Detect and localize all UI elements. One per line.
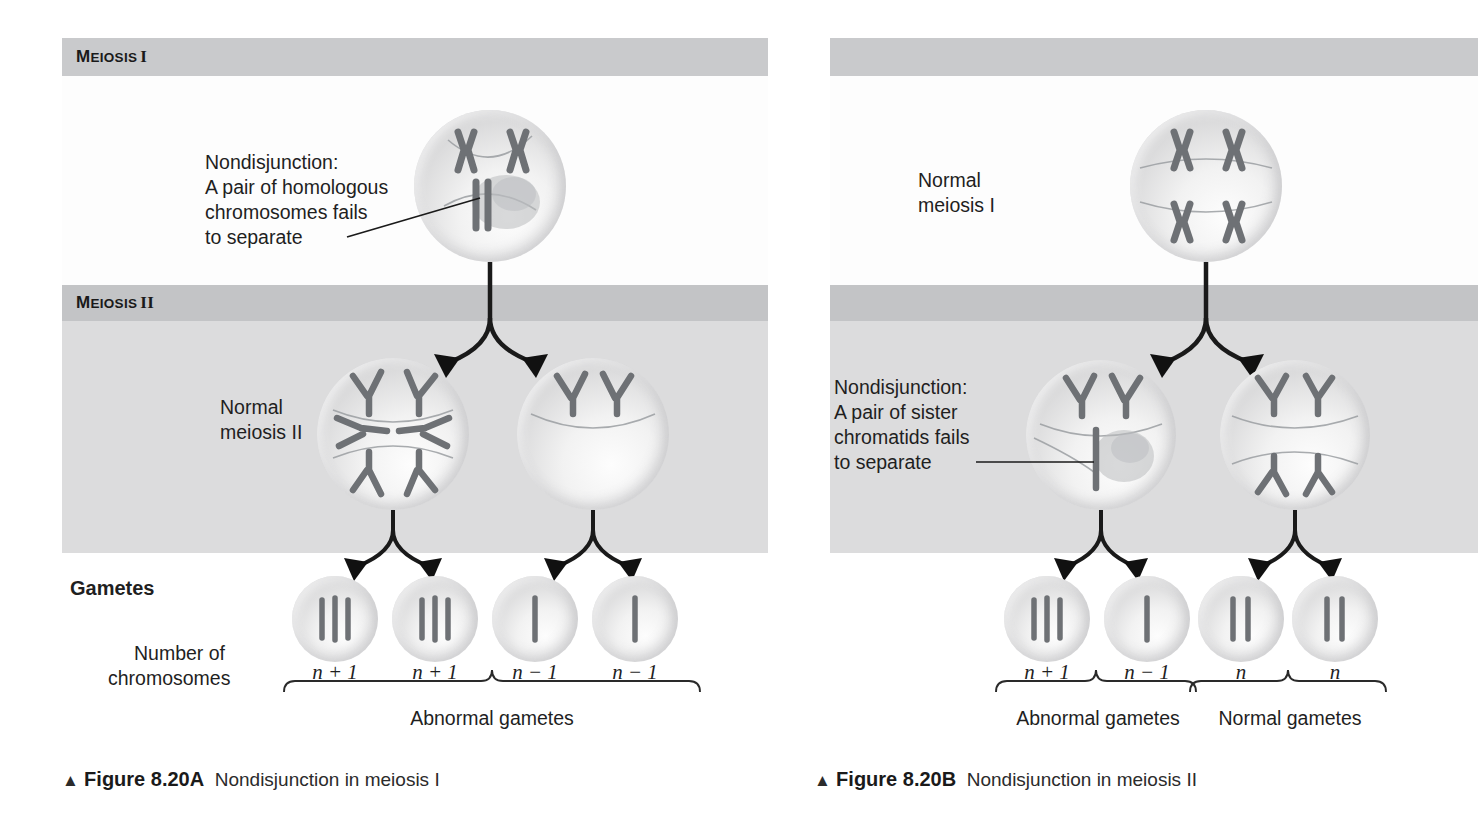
caption-number-left: Figure 8.20A — [84, 768, 204, 790]
figure-caption-right: ▲ Figure 8.20B Nondisjunction in meiosis… — [814, 768, 1197, 791]
gamete-cell-right-3 — [1198, 576, 1284, 662]
cell-meiosis-1-nondisjunction — [414, 110, 566, 262]
cell-meiosis-2-left-nm1 — [517, 358, 669, 510]
caption-triangle-right: ▲ — [814, 771, 831, 790]
annotation-right-line-2: A pair of sister — [834, 400, 958, 425]
annotation-nondisjunction-meiosis-2: Nondisjunction: — [834, 375, 967, 400]
annotation-line-2: A pair of homologous — [205, 175, 388, 200]
panel-meiosis-1-nondisjunction: MEIOSISI MEIOSISII Nondisjunction: A pai… — [62, 0, 768, 740]
gamete-cell-right-2 — [1104, 576, 1190, 662]
band-header-meiosis-1-right — [830, 38, 1478, 76]
label-normal-meiosis-2-line1: Normal — [220, 395, 283, 420]
brace-normal-gametes-right — [1190, 670, 1386, 692]
gamete-cell-left-1 — [292, 576, 378, 662]
label-number-of-chromosomes-line1: Number of — [134, 641, 225, 666]
gamete-notation-right-2: n − 1 — [1124, 660, 1170, 685]
band-header-meiosis-2-right — [830, 285, 1478, 321]
annotation-line-4: to separate — [205, 225, 303, 250]
cell-meiosis-2-normal-right — [1220, 360, 1370, 510]
figure-caption-left: ▲ Figure 8.20A Nondisjunction in meiosis… — [62, 768, 440, 791]
annotation-line-3: chromosomes fails — [205, 200, 368, 225]
caption-number-right: Figure 8.20B — [836, 768, 956, 790]
panel-meiosis-2-nondisjunction: Normal meiosis I Nondisjunctio — [830, 0, 1478, 740]
cell-meiosis-2-nondisjunction-right — [1026, 360, 1176, 510]
gamete-cell-right-4 — [1292, 576, 1378, 662]
bracket-label-abnormal-gametes-left: Abnormal gametes — [410, 706, 574, 731]
band-label-meiosis-1: MEIOSISI — [76, 47, 147, 67]
cell-meiosis-1-normal-right — [1130, 110, 1282, 262]
gamete-notation-left-1: n + 1 — [312, 660, 358, 685]
caption-triangle-left: ▲ — [62, 771, 79, 790]
band-header-meiosis-1: MEIOSISI — [62, 38, 768, 76]
caption-text-left: Nondisjunction in meiosis I — [215, 769, 440, 790]
annotation-right-line-4: to separate — [834, 450, 932, 475]
label-number-of-chromosomes-line2: chromosomes — [108, 666, 230, 691]
gamete-notation-right-4: n — [1330, 660, 1341, 685]
bracket-label-normal-gametes-right: Normal gametes — [1218, 706, 1361, 731]
annotation-right-line-3: chromatids fails — [834, 425, 969, 450]
gamete-cell-left-2 — [392, 576, 478, 662]
bracket-label-abnormal-gametes-right: Abnormal gametes — [1016, 706, 1180, 731]
figure-canvas: MEIOSISI MEIOSISII Nondisjunction: A pai… — [0, 0, 1478, 829]
gamete-notation-right-3: n — [1236, 660, 1247, 685]
gamete-cell-right-1 — [1004, 576, 1090, 662]
gamete-cell-left-4 — [592, 576, 678, 662]
label-gametes-left: Gametes — [70, 576, 155, 601]
gamete-cell-left-3 — [492, 576, 578, 662]
annotation-nondisjunction-meiosis-1: Nondisjunction: — [205, 150, 338, 175]
gamete-notation-right-1: n + 1 — [1024, 660, 1070, 685]
gamete-notation-left-3: n − 1 — [512, 660, 558, 685]
caption-text-right: Nondisjunction in meiosis II — [967, 769, 1197, 790]
label-normal-meiosis-1-line1: Normal — [918, 168, 981, 193]
gamete-notation-left-4: n − 1 — [612, 660, 658, 685]
cell-meiosis-2-left-np1 — [317, 358, 469, 510]
band-header-meiosis-2-left: MEIOSISII — [62, 285, 768, 321]
label-normal-meiosis-1-line2: meiosis I — [918, 193, 995, 218]
label-normal-meiosis-2-line2: meiosis II — [220, 420, 302, 445]
band-label-meiosis-2: MEIOSISII — [76, 293, 154, 313]
gamete-notation-left-2: n + 1 — [412, 660, 458, 685]
